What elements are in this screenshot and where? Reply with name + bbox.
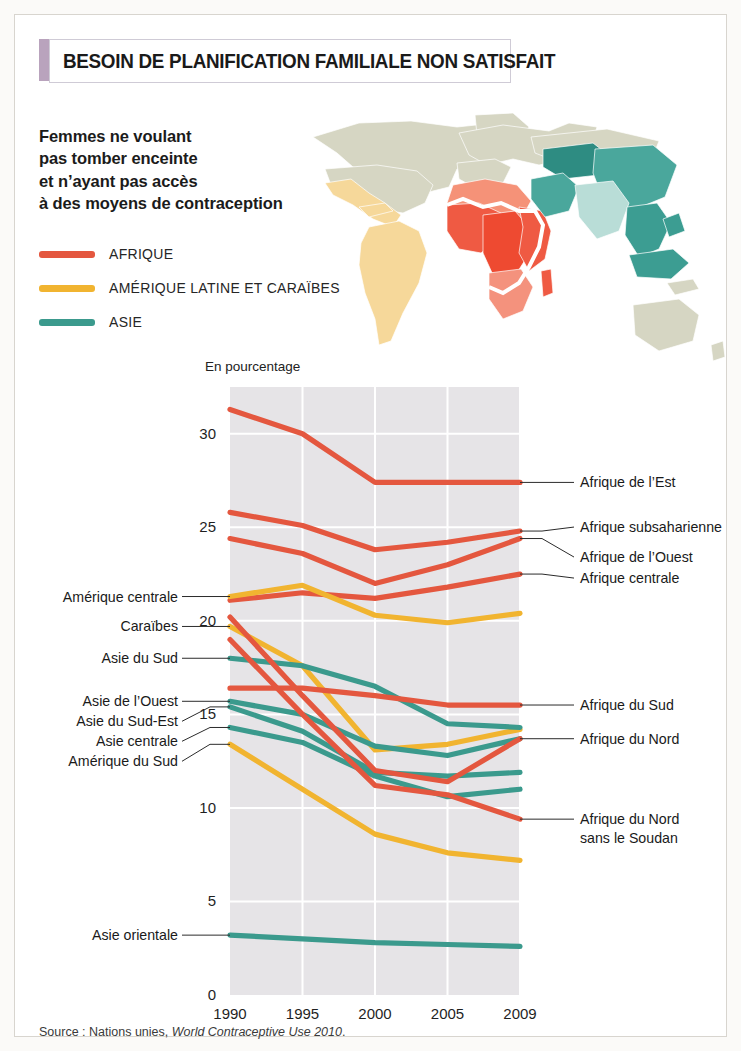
series-label-left: Asie centrale — [96, 733, 178, 749]
legend-swatch-amerique-latine — [39, 285, 95, 292]
series-label-right: Afrique subsaharienne — [580, 519, 722, 535]
map-region-madagascar — [541, 269, 553, 297]
series-label-right-line2: sans le Soudan — [580, 830, 678, 846]
map-region-asie-du-sud-est — [625, 203, 671, 257]
subtitle-line-2: pas tomber enceinte — [39, 147, 329, 169]
source-prefix: Source : Nations unies, — [39, 1025, 172, 1039]
legend-swatch-asie — [39, 319, 95, 326]
series-label-left: Caraïbes — [120, 618, 178, 634]
subtitle-block: Femmes ne voulant pas tomber enceinte et… — [39, 125, 329, 214]
leader-line — [520, 539, 574, 558]
map-region-papua — [667, 279, 699, 295]
subtitle-line-4: à des moyens de contraception — [39, 192, 329, 214]
x-tick-label: 2005 — [431, 1005, 464, 1022]
series-label-left: Asie de l’Ouest — [83, 693, 178, 709]
source-title: World Contraceptive Use 2010 — [172, 1025, 342, 1039]
page-title: BESOIN DE PLANIFICATION FAMILIALE NON SA… — [50, 49, 555, 73]
series-label-right: Afrique de l’Est — [580, 474, 675, 490]
x-tick-labels: 19901995200020052009 — [213, 1005, 536, 1022]
series-label-right: Afrique du Sud — [580, 697, 674, 713]
series-label-left: Asie orientale — [92, 927, 178, 943]
y-tick-label: 10 — [199, 799, 216, 816]
subtitle-line-1: Femmes ne voulant — [39, 125, 329, 147]
map-region-australia — [633, 299, 699, 351]
legend-label-afrique: AFRIQUE — [109, 246, 173, 262]
series-label-right: Afrique centrale — [580, 570, 679, 586]
leader-line — [182, 727, 230, 741]
leader-line — [520, 574, 574, 578]
x-tick-label: 1990 — [213, 1005, 246, 1022]
y-tick-label: 25 — [199, 518, 216, 535]
legend-label-amerique-latine: AMÉRIQUE LATINE ET CARAÏBES — [109, 280, 340, 296]
y-tick-labels: 051015202530 — [199, 425, 216, 1003]
series-label-left: Asie du Sud — [101, 650, 178, 666]
legend-swatch-afrique — [39, 251, 95, 258]
leader-line — [182, 744, 230, 761]
page-root: BESOIN DE PLANIFICATION FAMILIALE NON SA… — [0, 0, 741, 1051]
title-block: BESOIN DE PLANIFICATION FAMILIALE NON SA… — [39, 39, 509, 81]
map-region-afrique-australe — [489, 269, 533, 319]
y-tick-label: 0 — [208, 986, 216, 1003]
series-label-right: Afrique de l’Ouest — [580, 549, 693, 565]
line-chart: 051015202530 19901995200020052009 Afriqu… — [15, 345, 726, 1025]
source-suffix: . — [342, 1025, 345, 1039]
subtitle-line-3: et n’ayant pas accès — [39, 170, 329, 192]
series-label-left: Amérique centrale — [63, 589, 178, 605]
series-label-right: Afrique du Nord — [580, 731, 679, 747]
leader-line — [520, 527, 574, 531]
series-label-left: Amérique du Sud — [68, 753, 178, 769]
x-tick-label: 2009 — [503, 1005, 536, 1022]
source-note: Source : Nations unies, World Contracept… — [39, 1025, 345, 1039]
y-tick-label: 30 — [199, 425, 216, 442]
x-tick-label: 1995 — [286, 1005, 319, 1022]
series-label-left: Asie du Sud-Est — [76, 713, 178, 729]
legend-label-asie: ASIE — [109, 314, 142, 330]
title-box: BESOIN DE PLANIFICATION FAMILIALE NON SA… — [49, 39, 511, 83]
map-region-south-america — [359, 221, 427, 345]
map-region-indonesie — [629, 249, 689, 279]
series-label-right: Afrique du Nord — [580, 811, 679, 827]
poster-frame: BESOIN DE PLANIFICATION FAMILIALE NON SA… — [14, 14, 727, 1037]
x-tick-label: 2000 — [358, 1005, 391, 1022]
y-tick-label: 5 — [208, 892, 216, 909]
